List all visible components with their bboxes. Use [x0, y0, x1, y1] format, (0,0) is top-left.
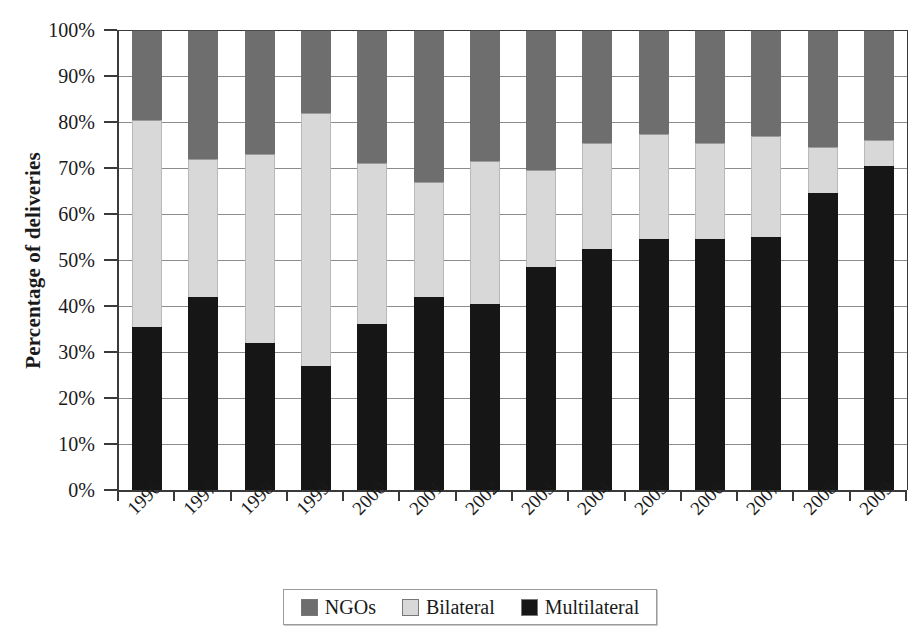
y-tick-label: 30%: [58, 341, 95, 364]
bar-segment-ngos[interactable]: [414, 30, 444, 182]
bar-2003[interactable]: [526, 30, 556, 490]
bar-segment-bilateral[interactable]: [188, 159, 218, 297]
bar-segment-multilateral[interactable]: [470, 304, 500, 490]
bar-2006[interactable]: [695, 30, 725, 490]
y-tick-mark: [104, 29, 117, 31]
bar-segment-multilateral[interactable]: [132, 327, 162, 490]
legend-item-ngos[interactable]: NGOs: [301, 596, 376, 619]
bar-2000[interactable]: [357, 30, 387, 490]
bar-segment-bilateral[interactable]: [751, 136, 781, 237]
gridline: [119, 168, 907, 169]
legend-swatch-icon: [402, 599, 419, 616]
bar-segment-multilateral[interactable]: [864, 166, 894, 490]
bar-segment-multilateral[interactable]: [695, 239, 725, 490]
bar-segment-ngos[interactable]: [695, 30, 725, 143]
y-tick-label: 40%: [58, 295, 95, 318]
y-tick-mark: [104, 305, 117, 307]
legend-label: Bilateral: [426, 596, 495, 619]
y-tick-mark: [104, 75, 117, 77]
bar-segment-ngos[interactable]: [470, 30, 500, 161]
bar-segment-bilateral[interactable]: [470, 161, 500, 304]
bar-segment-multilateral[interactable]: [414, 297, 444, 490]
y-tick-mark: [104, 351, 117, 353]
gridline: [119, 306, 907, 307]
bar-segment-ngos[interactable]: [808, 30, 838, 147]
bar-segment-ngos[interactable]: [301, 30, 331, 113]
legend-item-multilateral[interactable]: Multilateral: [521, 596, 639, 619]
plot-right-edge: [907, 30, 908, 490]
stacked-bar-chart: Percentage of deliveries 0%10%20%30%40%5…: [0, 0, 923, 640]
bar-segment-ngos[interactable]: [526, 30, 556, 170]
y-tick-label: 70%: [58, 157, 95, 180]
y-tick-mark: [104, 397, 117, 399]
y-tick-label: 0%: [68, 479, 95, 502]
gridline: [119, 122, 907, 123]
bar-segment-bilateral[interactable]: [245, 154, 275, 343]
gridline: [119, 352, 907, 353]
bar-segment-ngos[interactable]: [751, 30, 781, 136]
bar-segment-ngos[interactable]: [188, 30, 218, 159]
legend-item-bilateral[interactable]: Bilateral: [402, 596, 495, 619]
y-tick-label: 80%: [58, 111, 95, 134]
chart-legend: NGOsBilateralMultilateral: [283, 589, 657, 625]
bar-segment-multilateral[interactable]: [357, 324, 387, 490]
x-tick-mark: [905, 490, 907, 501]
y-tick-mark: [104, 443, 117, 445]
bar-segment-multilateral[interactable]: [301, 366, 331, 490]
y-tick-label: 20%: [58, 387, 95, 410]
gridline: [119, 30, 907, 31]
y-tick-mark: [104, 489, 117, 491]
gridline: [119, 444, 907, 445]
bar-segment-ngos[interactable]: [582, 30, 612, 143]
y-tick-mark: [104, 213, 117, 215]
bar-2008[interactable]: [808, 30, 838, 490]
bar-segment-multilateral[interactable]: [582, 249, 612, 491]
bar-segment-bilateral[interactable]: [526, 170, 556, 267]
bar-segment-multilateral[interactable]: [808, 193, 838, 490]
bar-segment-multilateral[interactable]: [639, 239, 669, 490]
x-axis-labels: 1996199719981999200020012002200320042005…: [117, 500, 905, 570]
gridline: [119, 76, 907, 77]
bar-segment-bilateral[interactable]: [132, 120, 162, 327]
bar-segment-bilateral[interactable]: [695, 143, 725, 240]
bar-1996[interactable]: [132, 30, 162, 490]
bar-segment-bilateral[interactable]: [639, 134, 669, 240]
bar-segment-ngos[interactable]: [357, 30, 387, 163]
legend-label: Multilateral: [545, 596, 639, 619]
bar-2001[interactable]: [414, 30, 444, 490]
y-tick-mark: [104, 259, 117, 261]
bar-2009[interactable]: [864, 30, 894, 490]
bar-2005[interactable]: [639, 30, 669, 490]
y-tick-label: 100%: [48, 19, 95, 42]
bar-2002[interactable]: [470, 30, 500, 490]
bar-segment-bilateral[interactable]: [357, 163, 387, 324]
y-tick-label: 60%: [58, 203, 95, 226]
y-tick-label: 10%: [58, 433, 95, 456]
bar-segment-multilateral[interactable]: [526, 267, 556, 490]
legend-swatch-icon: [521, 599, 538, 616]
bar-segment-ngos[interactable]: [132, 30, 162, 120]
bar-segment-ngos[interactable]: [245, 30, 275, 154]
y-tick-label: 50%: [58, 249, 95, 272]
bar-2004[interactable]: [582, 30, 612, 490]
bar-1999[interactable]: [301, 30, 331, 490]
bar-segment-bilateral[interactable]: [301, 113, 331, 366]
bar-segment-multilateral[interactable]: [245, 343, 275, 490]
legend-swatch-icon: [301, 599, 318, 616]
bar-segment-bilateral[interactable]: [808, 147, 838, 193]
gridline: [119, 214, 907, 215]
bar-segment-bilateral[interactable]: [414, 182, 444, 297]
bar-1997[interactable]: [188, 30, 218, 490]
bar-segment-bilateral[interactable]: [864, 140, 894, 165]
bar-segment-ngos[interactable]: [864, 30, 894, 140]
bar-2007[interactable]: [751, 30, 781, 490]
gridline: [119, 398, 907, 399]
bar-segment-multilateral[interactable]: [751, 237, 781, 490]
y-tick-label: 90%: [58, 65, 95, 88]
bar-segment-ngos[interactable]: [639, 30, 669, 134]
legend-label: NGOs: [325, 596, 376, 619]
y-tick-mark: [104, 121, 117, 123]
bar-1998[interactable]: [245, 30, 275, 490]
bar-segment-bilateral[interactable]: [582, 143, 612, 249]
bar-segment-multilateral[interactable]: [188, 297, 218, 490]
